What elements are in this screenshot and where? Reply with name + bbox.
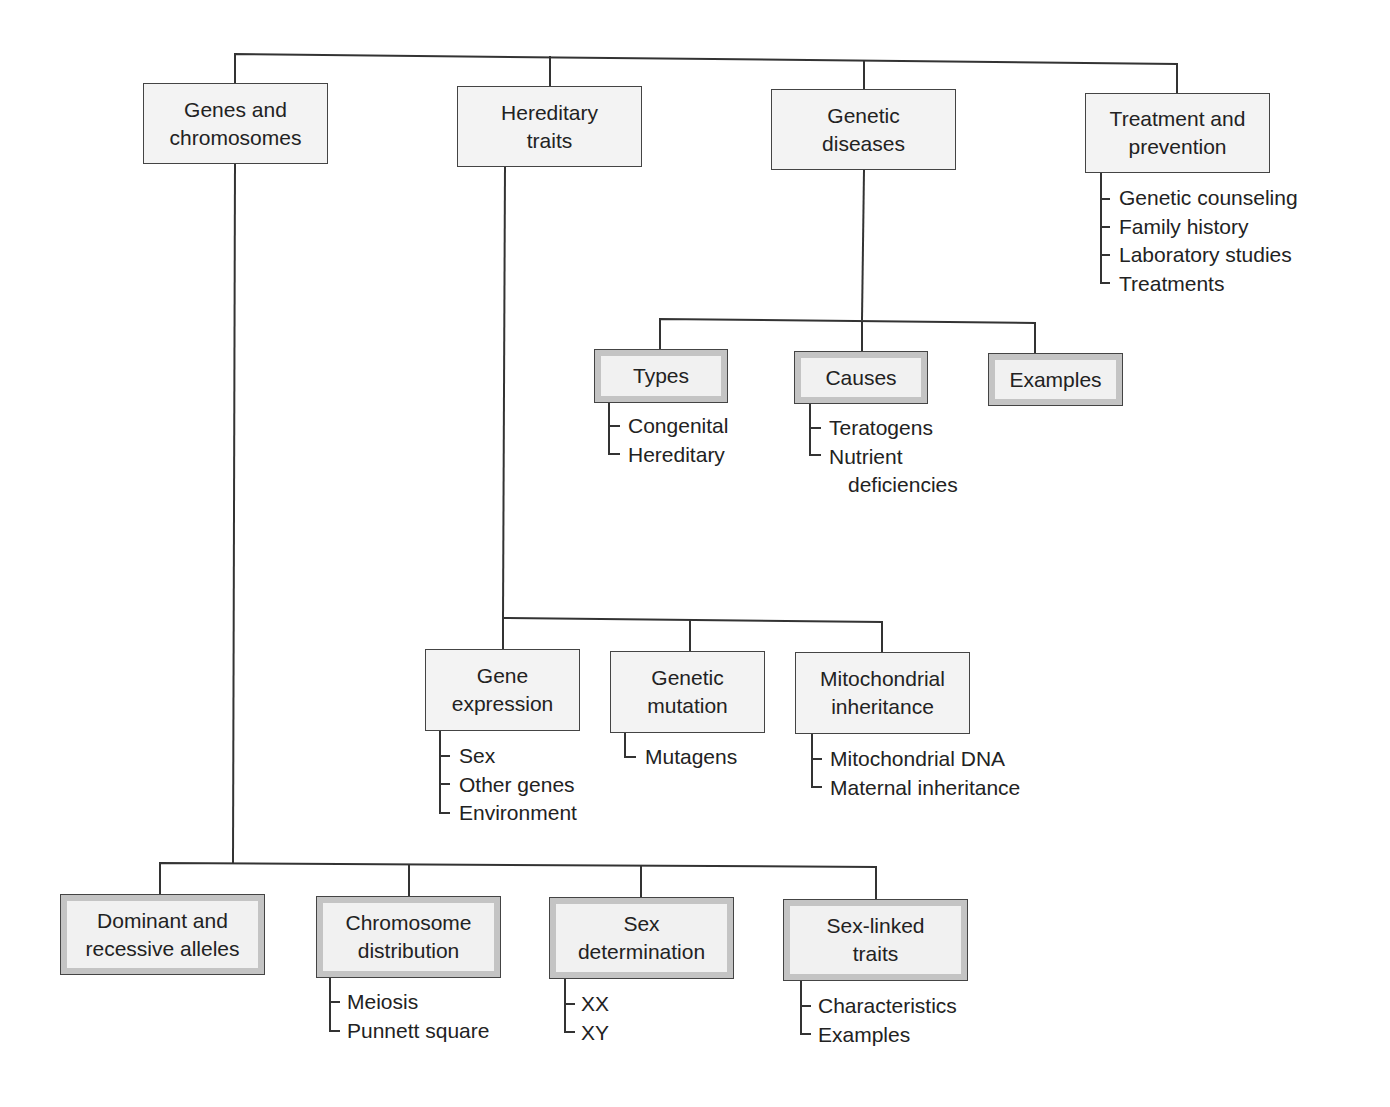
- node-label: Types: [633, 362, 689, 390]
- mitochondrial-items: Mitochondrial DNA Maternal inheritance: [830, 745, 1020, 802]
- node-label: Examples: [1009, 366, 1101, 394]
- list-item: Laboratory studies: [1119, 241, 1298, 270]
- list-item: Sex: [459, 742, 577, 771]
- list-item: XY: [581, 1019, 609, 1048]
- node-label: Hereditary traits: [501, 99, 598, 155]
- node-label: Genetic mutation: [647, 664, 728, 720]
- list-item: Maternal inheritance: [830, 774, 1020, 803]
- node-causes: Causes: [794, 351, 928, 404]
- node-label: Mitochondrial inheritance: [820, 665, 945, 721]
- node-dominant-recessive-alleles: Dominant and recessive alleles: [60, 894, 265, 975]
- node-label: Genetic diseases: [822, 102, 905, 158]
- node-label: Sex-linked traits: [826, 912, 924, 968]
- treatment-items: Genetic counseling Family history Labora…: [1119, 184, 1298, 298]
- node-gene-expression: Gene expression: [425, 649, 580, 731]
- node-label: Causes: [825, 364, 896, 392]
- gene-expression-items: Sex Other genes Environment: [459, 742, 577, 828]
- list-item: Environment: [459, 799, 577, 828]
- list-item: Other genes: [459, 771, 577, 800]
- node-genetic-diseases: Genetic diseases: [771, 89, 956, 170]
- list-item: Examples: [818, 1021, 957, 1050]
- sex-determination-items: XX XY: [581, 990, 609, 1047]
- causes-items: Teratogens Nutrient deficiencies: [829, 414, 958, 500]
- list-item: deficiencies: [829, 471, 958, 500]
- list-item: Congenital: [628, 412, 728, 441]
- list-item: Teratogens: [829, 414, 958, 443]
- list-item: Treatments: [1119, 270, 1298, 299]
- sex-linked-items: Characteristics Examples: [818, 992, 957, 1049]
- node-label: Treatment and prevention: [1110, 105, 1246, 161]
- list-item: Characteristics: [818, 992, 957, 1021]
- list-item: Mitochondrial DNA: [830, 745, 1020, 774]
- node-types: Types: [594, 349, 728, 403]
- node-genetic-mutation: Genetic mutation: [610, 651, 765, 733]
- node-label: Gene expression: [452, 662, 554, 718]
- node-label: Genes and chromosomes: [170, 96, 302, 152]
- list-item: XX: [581, 990, 609, 1019]
- list-item: Punnett square: [347, 1017, 489, 1046]
- node-label: Sex determination: [578, 910, 705, 966]
- node-examples: Examples: [988, 353, 1123, 406]
- chromosome-items: Meiosis Punnett square: [347, 988, 489, 1045]
- mutation-items: Mutagens: [645, 743, 737, 772]
- node-treatment-and-prevention: Treatment and prevention: [1085, 93, 1270, 173]
- node-genes-and-chromosomes: Genes and chromosomes: [143, 83, 328, 164]
- list-item: Nutrient: [829, 443, 958, 472]
- list-item: Hereditary: [628, 441, 728, 470]
- node-mitochondrial-inheritance: Mitochondrial inheritance: [795, 652, 970, 734]
- node-label: Chromosome distribution: [345, 909, 471, 965]
- list-item: Meiosis: [347, 988, 489, 1017]
- types-items: Congenital Hereditary: [628, 412, 728, 469]
- list-item: Genetic counseling: [1119, 184, 1298, 213]
- list-item: Mutagens: [645, 743, 737, 772]
- node-hereditary-traits: Hereditary traits: [457, 86, 642, 167]
- node-sex-determination: Sex determination: [549, 897, 734, 979]
- node-label: Dominant and recessive alleles: [85, 907, 239, 963]
- list-item: Family history: [1119, 213, 1298, 242]
- node-sex-linked-traits: Sex-linked traits: [783, 899, 968, 981]
- node-chromosome-distribution: Chromosome distribution: [316, 896, 501, 978]
